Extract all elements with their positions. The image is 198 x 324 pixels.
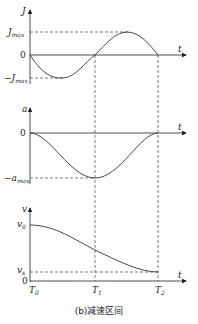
svg-text:−amax: −amax bbox=[4, 173, 30, 184]
svg-text:T1: T1 bbox=[92, 285, 102, 296]
diagram-canvas: J Jmax 0 −Jmax t a 0 −amax t v v0 vs 0 t… bbox=[0, 0, 198, 324]
svg-text:−Jmax: −Jmax bbox=[4, 73, 28, 84]
svg-text:t: t bbox=[178, 44, 182, 54]
svg-text:t: t bbox=[178, 122, 182, 132]
svg-text:0: 0 bbox=[20, 128, 26, 138]
svg-text:v: v bbox=[22, 204, 27, 214]
velocity-plot: v v0 vs 0 t T0 T1 T2 bbox=[17, 204, 186, 296]
figure-caption: (b)减速区间 bbox=[0, 304, 198, 317]
svg-text:a: a bbox=[22, 104, 27, 114]
svg-text:t: t bbox=[178, 270, 182, 280]
deceleration-diagram: J Jmax 0 −Jmax t a 0 −amax t v v0 vs 0 t… bbox=[0, 0, 198, 324]
svg-text:J: J bbox=[20, 6, 27, 16]
svg-text:Jmax: Jmax bbox=[6, 27, 25, 38]
svg-text:T0: T0 bbox=[29, 285, 39, 296]
svg-text:v0: v0 bbox=[17, 219, 26, 230]
svg-text:0: 0 bbox=[20, 50, 26, 60]
svg-text:0: 0 bbox=[22, 276, 28, 286]
svg-text:vs: vs bbox=[17, 265, 25, 276]
svg-text:T2: T2 bbox=[155, 285, 165, 296]
